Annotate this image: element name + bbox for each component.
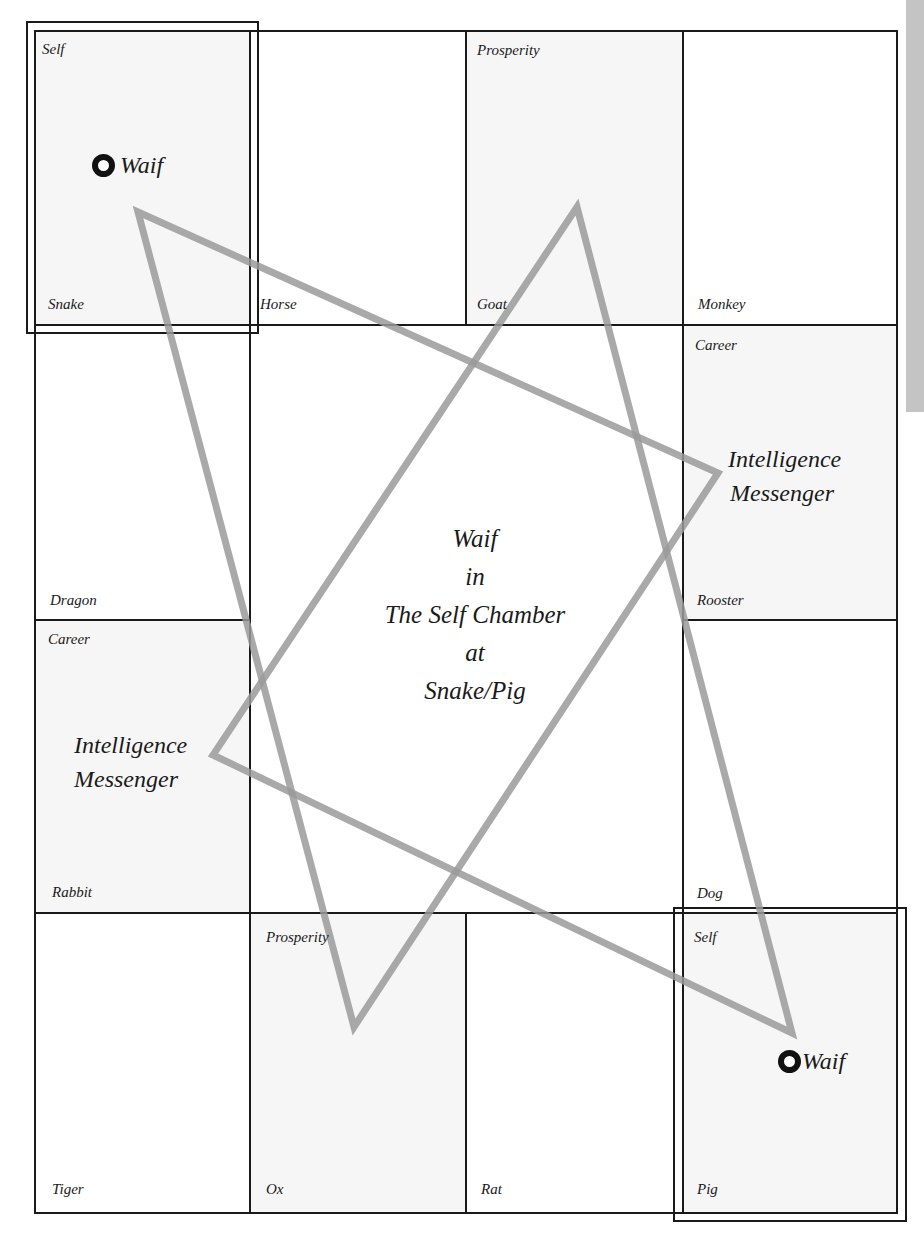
branch-label-rooster: Rooster — [697, 593, 744, 608]
branch-label-monkey: Monkey — [698, 297, 745, 312]
palace-label-ox: Prosperity — [266, 930, 329, 945]
star-intelligence-rooster: Intelligence — [728, 442, 841, 476]
branch-label-ox: Ox — [266, 1182, 284, 1197]
waif-marker-icon-snake — [92, 154, 115, 177]
center-line-4: at — [330, 634, 620, 672]
branch-label-dragon: Dragon — [50, 593, 97, 608]
star-messenger-rabbit: Messenger — [74, 762, 178, 796]
branch-label-dog: Dog — [697, 886, 723, 901]
palace-label-pig: Self — [694, 930, 717, 945]
branch-label-tiger: Tiger — [52, 1182, 84, 1197]
branch-label-goat: Goat — [477, 297, 507, 312]
star-messenger-rooster: Messenger — [730, 476, 834, 510]
branch-label-snake: Snake — [48, 297, 84, 312]
palace-label-rabbit: Career — [48, 632, 90, 647]
palace-label-snake: Self — [42, 42, 65, 57]
center-line-1: Waif — [330, 520, 620, 558]
palace-label-rooster: Career — [695, 338, 737, 353]
branch-label-horse: Horse — [260, 297, 297, 312]
star-intelligence-rabbit: Intelligence — [74, 728, 187, 762]
star-waif-snake: Waif — [120, 153, 163, 177]
center-line-3: The Self Chamber — [330, 596, 620, 634]
palace-label-goat: Prosperity — [477, 43, 540, 58]
center-line-2: in — [330, 558, 620, 596]
branch-label-pig: Pig — [697, 1182, 718, 1197]
branch-label-rat: Rat — [481, 1182, 502, 1197]
star-waif-pig: Waif — [779, 1049, 845, 1073]
branch-label-rabbit: Rabbit — [52, 885, 92, 900]
center-line-5: Snake/Pig — [330, 672, 620, 710]
center-caption: Waif in The Self Chamber at Snake/Pig — [330, 520, 620, 710]
